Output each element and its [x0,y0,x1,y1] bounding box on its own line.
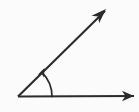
angle-diagram-svg [0,0,139,112]
horizontal-ray [18,96,134,97]
angle-diagram-canvas [0,0,139,112]
